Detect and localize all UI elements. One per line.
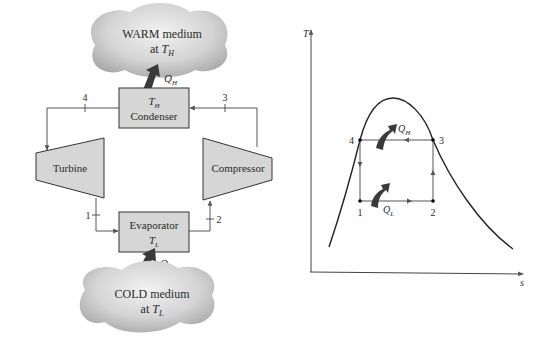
svg-text:Compressor: Compressor bbox=[211, 162, 265, 174]
ts-heat-out-arrow-icon bbox=[376, 124, 397, 150]
svg-text:4: 4 bbox=[349, 135, 354, 146]
line-2 bbox=[189, 201, 210, 231]
svg-text:1: 1 bbox=[358, 207, 363, 218]
svg-text:3: 3 bbox=[439, 135, 444, 146]
condenser-box: TH Condenser bbox=[119, 88, 189, 128]
x-axis-label: s bbox=[520, 277, 524, 288]
cold-medium-cloud: COLD medium at TL bbox=[80, 261, 215, 333]
line-3 bbox=[190, 108, 257, 147]
ts-diagram: T s 4 3 1 2 QH QL bbox=[303, 28, 524, 288]
y-axis-label: T bbox=[303, 28, 310, 39]
svg-text:QH: QH bbox=[398, 123, 411, 137]
svg-text:Condenser: Condenser bbox=[130, 110, 177, 122]
cold-medium-label: COLD medium bbox=[115, 287, 191, 301]
state-2-label: 2 bbox=[217, 214, 222, 225]
warm-medium-cloud: WARM medium at TH bbox=[91, 3, 228, 78]
compressor: Compressor bbox=[203, 138, 272, 200]
state-1-label: 1 bbox=[86, 210, 91, 221]
warm-medium-label: WARM medium bbox=[122, 27, 202, 41]
svg-text:QL: QL bbox=[383, 204, 394, 218]
evaporator-box: Evaporator TL bbox=[119, 212, 189, 252]
svg-text:Evaporator: Evaporator bbox=[130, 219, 179, 231]
turbine: Turbine bbox=[36, 138, 104, 198]
saturation-dome bbox=[329, 98, 513, 249]
state-3-label: 3 bbox=[223, 92, 228, 103]
svg-text:Turbine: Turbine bbox=[53, 162, 88, 174]
reversed-carnot-cycle-diagram: WARM medium at TH QH TH Condenser 4 3 Tu… bbox=[0, 0, 549, 339]
svg-text:2: 2 bbox=[431, 207, 436, 218]
state-4-label: 4 bbox=[83, 92, 88, 103]
